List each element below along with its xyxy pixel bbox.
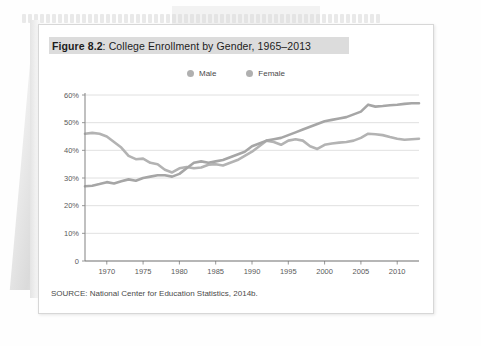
legend-dot-male-icon <box>187 70 194 77</box>
binding-hole <box>112 14 116 23</box>
binding-hole <box>364 14 368 23</box>
binding-hole <box>376 14 380 23</box>
chart-gridlines <box>82 95 419 261</box>
binding-hole <box>82 14 86 23</box>
binding-hole <box>310 14 314 23</box>
binding-hole <box>298 14 302 23</box>
binding-hole <box>40 14 44 23</box>
binding-hole <box>154 14 158 23</box>
binding-hole <box>64 14 68 23</box>
spiral-binding <box>22 14 402 23</box>
binding-hole <box>226 14 230 23</box>
binding-hole <box>358 14 362 23</box>
binding-hole <box>172 14 176 23</box>
binding-hole <box>202 14 206 23</box>
figure-card: Figure 8.2: College Enrollment by Gender… <box>38 24 434 314</box>
binding-hole <box>352 14 356 23</box>
binding-hole <box>274 14 278 23</box>
chart-series-lines <box>85 103 419 186</box>
svg-text:50%: 50% <box>64 118 79 127</box>
binding-hole <box>148 14 152 23</box>
textbook-page: Figure 8.2: College Enrollment by Gender… <box>0 0 481 346</box>
chart-y-axis-labels: 010%20%30%40%50%60% <box>64 91 79 266</box>
svg-text:30%: 30% <box>64 174 79 183</box>
binding-hole <box>286 14 290 23</box>
figure-title: Figure 8.2: College Enrollment by Gender… <box>52 38 311 54</box>
figure-source-note: SOURCE: National Center for Education St… <box>51 289 258 298</box>
binding-hole <box>268 14 272 23</box>
svg-text:1990: 1990 <box>244 267 261 276</box>
svg-text:1975: 1975 <box>135 267 152 276</box>
svg-text:60%: 60% <box>64 91 79 100</box>
binding-hole <box>214 14 218 23</box>
legend-label-male: Male <box>199 69 216 78</box>
figure-number: Figure 8.2 <box>52 40 103 52</box>
binding-hole <box>94 14 98 23</box>
line-chart: 010%20%30%40%50%60% 19701975198019851990… <box>51 89 423 289</box>
chart-plot-area: 010%20%30%40%50%60% 19701975198019851990… <box>51 89 423 289</box>
figure-title-text: College Enrollment by Gender, 1965–2013 <box>109 40 311 52</box>
binding-hole <box>340 14 344 23</box>
binding-hole <box>304 14 308 23</box>
binding-hole <box>166 14 170 23</box>
chart-legend: Male Female <box>39 69 433 78</box>
svg-text:0: 0 <box>75 257 79 266</box>
legend-dot-female-icon <box>246 70 253 77</box>
binding-hole <box>190 14 194 23</box>
binding-hole <box>232 14 236 23</box>
binding-hole <box>238 14 242 23</box>
binding-hole <box>322 14 326 23</box>
svg-text:40%: 40% <box>64 146 79 155</box>
binding-hole <box>178 14 182 23</box>
svg-text:1980: 1980 <box>171 267 188 276</box>
svg-text:20%: 20% <box>64 201 79 210</box>
binding-hole <box>292 14 296 23</box>
binding-hole <box>52 14 56 23</box>
binding-hole <box>142 14 146 23</box>
binding-hole <box>262 14 266 23</box>
svg-text:1970: 1970 <box>98 267 115 276</box>
binding-hole <box>244 14 248 23</box>
svg-text:1995: 1995 <box>280 267 297 276</box>
binding-hole <box>220 14 224 23</box>
svg-text:1985: 1985 <box>207 267 224 276</box>
binding-hole <box>160 14 164 23</box>
svg-text:2010: 2010 <box>389 267 406 276</box>
binding-hole <box>76 14 80 23</box>
binding-hole <box>100 14 104 23</box>
binding-hole <box>106 14 110 23</box>
binding-hole <box>208 14 212 23</box>
svg-text:10%: 10% <box>64 229 79 238</box>
binding-hole <box>256 14 260 23</box>
binding-hole <box>130 14 134 23</box>
binding-hole <box>370 14 374 23</box>
binding-hole <box>196 14 200 23</box>
legend-item-male[interactable]: Male <box>187 69 216 78</box>
svg-text:2000: 2000 <box>316 267 333 276</box>
binding-hole <box>46 14 50 23</box>
binding-hole <box>70 14 74 23</box>
svg-text:2005: 2005 <box>353 267 370 276</box>
binding-hole <box>118 14 122 23</box>
binding-hole <box>250 14 254 23</box>
binding-hole <box>328 14 332 23</box>
binding-hole <box>136 14 140 23</box>
legend-label-female: Female <box>258 69 285 78</box>
binding-hole <box>22 14 26 23</box>
binding-hole <box>184 14 188 23</box>
binding-hole <box>280 14 284 23</box>
binding-hole <box>58 14 62 23</box>
binding-hole <box>124 14 128 23</box>
binding-hole <box>88 14 92 23</box>
legend-item-female[interactable]: Female <box>246 69 285 78</box>
binding-hole <box>346 14 350 23</box>
chart-x-axis-labels: 197019751980198519901995200020052010 <box>98 267 405 276</box>
binding-hole <box>316 14 320 23</box>
binding-hole <box>334 14 338 23</box>
